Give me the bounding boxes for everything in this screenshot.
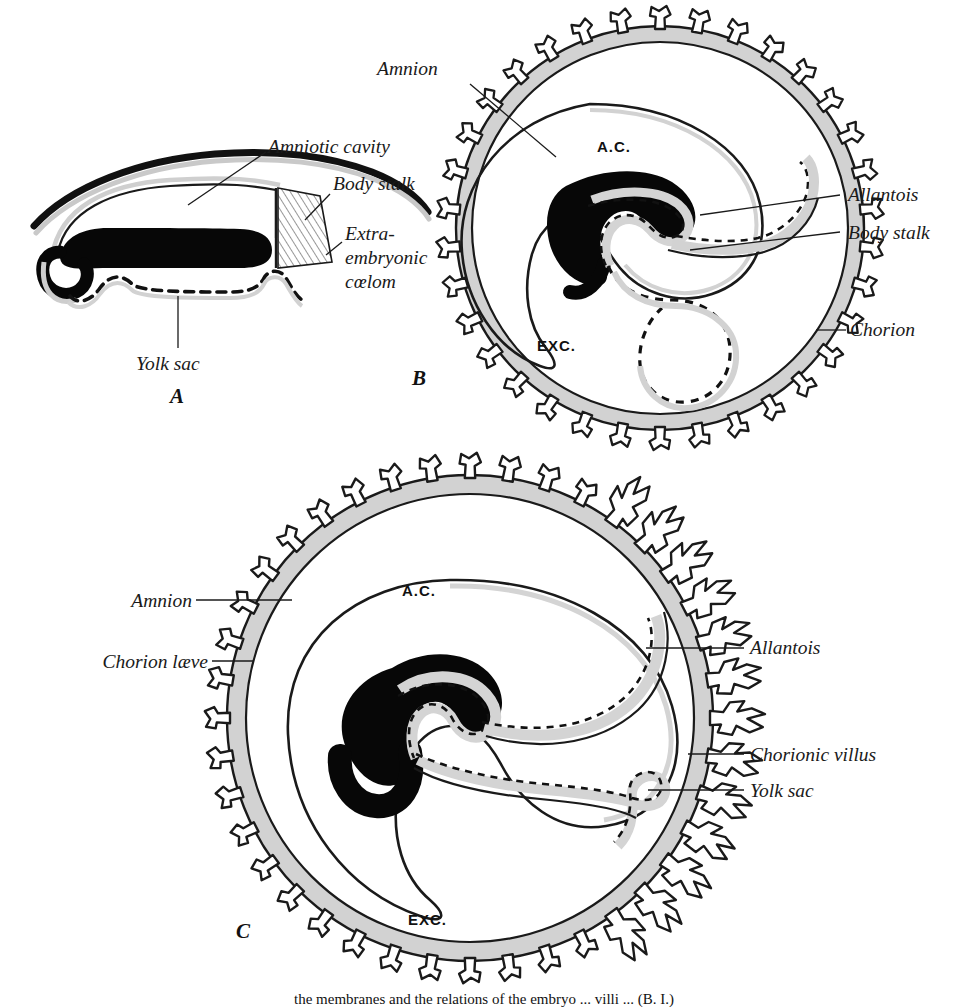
panel-b-label-allantois: Allantois <box>846 184 918 205</box>
chorionic-villus-shape <box>500 456 521 482</box>
chorionic-villus-shape <box>696 617 751 655</box>
chorionic-villus-shape <box>574 930 597 958</box>
panel-a: Amniotic cavity Body stalk Extra- embryo… <box>34 136 429 408</box>
panel-c-letter: C <box>236 919 251 943</box>
chorionic-villus-shape <box>660 853 711 897</box>
panel-a-label-coelom-3: cœlom <box>345 271 396 292</box>
chorionic-villus-shape <box>251 557 279 581</box>
panel-c-allantois-gray <box>484 616 660 735</box>
chorionic-villus-shape <box>342 479 365 507</box>
chorionic-villus-shape <box>477 344 502 368</box>
panel-c-yolksac-gray <box>418 760 665 846</box>
panel-c-label-allantois: Allantois <box>748 637 820 658</box>
chorionic-villus-shape <box>817 88 842 112</box>
panel-b-label-body-stalk: Body stalk <box>848 222 930 243</box>
chorionic-villus-shape <box>457 123 483 144</box>
chorionic-villus-shape <box>572 19 593 45</box>
chorionic-villus-shape <box>380 464 401 492</box>
chorionic-villus-shape <box>681 578 735 618</box>
panel-a-label-body-stalk: Body stalk <box>333 173 415 194</box>
chorionic-villus-shape <box>539 945 560 973</box>
chorionic-villus-shape <box>457 312 483 334</box>
chorionic-villus-shape <box>635 883 682 932</box>
chorionic-villus-shape <box>610 423 630 447</box>
chorionic-villus-shape <box>690 9 710 33</box>
chorionic-villus-shape <box>216 629 243 650</box>
chorionic-villus-shape <box>762 36 784 62</box>
panel-b: A.C. EXC. Amnion Allantois Body stalk Ch… <box>375 6 930 450</box>
chorionic-villus-shape <box>443 160 468 180</box>
panel-b-letter: B <box>411 366 426 390</box>
panel-a-letter: A <box>168 384 184 408</box>
chorionic-villus-shape <box>309 909 333 937</box>
chorionic-villus-shape <box>792 372 817 397</box>
chorionic-villus-shape <box>838 122 864 144</box>
chorionic-villus-shape <box>852 277 877 297</box>
chorionic-villus-shape <box>681 821 735 859</box>
chorionic-villus-shape <box>710 701 765 735</box>
chorionic-villus-shape <box>611 9 631 34</box>
panel-b-label-amnion: Amnion <box>375 58 438 79</box>
chorionic-villus-shape <box>635 507 684 554</box>
panel-b-abbr-exc: EXC. <box>537 337 576 354</box>
panel-c-label-chorionic-villus: Chorionic villus <box>750 744 876 765</box>
chorionic-villus-shape <box>696 783 752 818</box>
panel-b-label-chorion: Chorion <box>850 319 915 340</box>
panel-b-abbr-amniotic-cavity: A.C. <box>597 138 631 155</box>
panel-a-label-coelom-1: Extra- <box>344 223 395 244</box>
chorionic-villus-shape <box>728 412 749 438</box>
chorionic-villus-shape <box>308 500 333 527</box>
panel-a-label-yolk-sac: Yolk sac <box>136 353 200 374</box>
chorionic-villus-shape <box>535 36 558 62</box>
figure-caption: the membranes and the relations of the e… <box>0 991 968 1007</box>
chorionic-villus-shape <box>443 276 468 296</box>
chorionic-villus-shape <box>499 954 520 981</box>
chorionic-villus-shape <box>252 855 279 880</box>
chorionic-villus-shape <box>419 954 440 980</box>
chorionic-villus-shape <box>660 541 712 583</box>
chorionic-villus-shape <box>605 477 649 528</box>
panel-b-leader-allantois <box>700 195 840 215</box>
chorionic-villus-shape <box>504 372 528 397</box>
chorionic-villus-shape <box>278 884 304 911</box>
chorionic-villus-shape <box>539 464 560 491</box>
chorionic-villus-shape <box>381 945 402 972</box>
chorionic-villus-shape <box>817 344 843 367</box>
chorionic-villus-shape <box>231 822 259 845</box>
chorionic-villus-shape <box>216 787 244 808</box>
chorionic-villus-shape <box>504 60 529 85</box>
panel-c: A.C. EXC. Amnion Chorion læve Allantois … <box>102 453 876 983</box>
chorionic-villus-shape <box>208 667 234 688</box>
panel-c-abbr-amniotic-cavity: A.C. <box>402 582 436 599</box>
chorionic-villus-shape <box>344 930 366 958</box>
panel-c-abbr-exc: EXC. <box>408 911 447 928</box>
chorionic-villus-shape <box>706 658 761 693</box>
chorionic-villus-shape <box>420 455 441 482</box>
chorionic-villus-shape <box>689 423 709 448</box>
chorionic-villus-shape <box>728 19 748 44</box>
panel-a-embryo-body <box>60 228 272 269</box>
chorionic-villus-shape <box>572 412 592 437</box>
panel-a-label-coelom-2: embryonic <box>345 247 428 268</box>
chorionic-villus-shape <box>604 908 646 960</box>
panel-c-label-yolk-sac: Yolk sac <box>750 780 814 801</box>
chorionic-villus-shape <box>574 479 596 507</box>
chorionic-villus-shape <box>231 592 259 614</box>
panel-c-label-amnion: Amnion <box>129 590 192 611</box>
chorionic-villus-shape <box>762 395 785 421</box>
chorionic-villus-shape <box>277 526 304 552</box>
panel-a-label-amniotic-cavity: Amniotic cavity <box>266 136 390 157</box>
chorionic-villus-shape <box>792 59 816 84</box>
panel-c-label-chorion-laeve: Chorion læve <box>102 651 208 672</box>
chorionic-villus-shape <box>207 747 234 768</box>
chorionic-villus-shape <box>537 395 559 421</box>
chorionic-villus-shape <box>852 159 877 179</box>
